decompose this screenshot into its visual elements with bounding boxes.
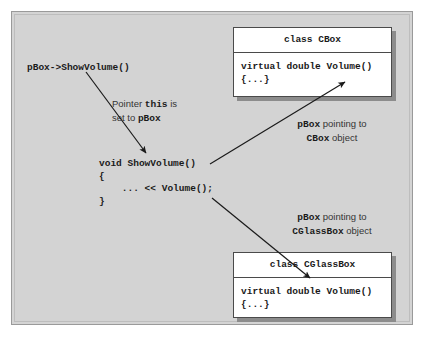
pointer-this-note: Pointer this is set to pBox: [112, 97, 177, 125]
class-box-cbox-method: virtual double Volume(): [241, 61, 372, 72]
class-box-cglassbox: class CGlassBox virtual double Volume() …: [233, 252, 392, 318]
cbox-label-code-pbox: pBox: [297, 119, 320, 130]
cglassbox-label-line2-suffix: object: [344, 225, 372, 236]
function-block: void ShowVolume() { ... << Volume(); }: [99, 158, 213, 208]
cglassbox-arrow-label: pBox pointing to CGlassBox object: [262, 210, 402, 238]
cbox-label-line2-suffix: object: [329, 132, 357, 143]
cbox-arrow-label-line1: pBox pointing to: [297, 118, 366, 129]
class-box-cglassbox-method-body: {...}: [241, 299, 270, 310]
cbox-arrow-label-line2: CBox object: [307, 132, 358, 143]
cglassbox-label-code-pbox: pBox: [297, 212, 320, 223]
class-box-cglassbox-header: class CGlassBox: [234, 253, 391, 278]
cglassbox-arrow-label-line2: CGlassBox object: [292, 225, 371, 236]
function-block-statement: ... << Volume();: [99, 183, 213, 194]
cbox-arrow-label: pBox pointing to CBox object: [272, 117, 392, 145]
pointer-note-line1: Pointer this is: [112, 98, 177, 109]
cbox-label-line1-suffix: pointing to: [320, 118, 366, 129]
pointer-note-line2: set to pBox: [112, 112, 161, 123]
call-site-text: pBox->ShowVolume(): [27, 62, 130, 75]
pointer-note-line2-prefix: set to: [112, 112, 138, 123]
pointer-note-prefix: Pointer: [112, 98, 145, 109]
pointer-note-code-this: this: [145, 99, 168, 110]
function-block-close-brace: }: [99, 196, 105, 207]
class-box-cglassbox-body: virtual double Volume() {...}: [234, 278, 391, 311]
pointer-note-code-pbox: pBox: [138, 113, 161, 124]
function-block-open-brace: {: [99, 171, 105, 182]
class-box-cbox-header: class CBox: [234, 28, 391, 53]
diagram-canvas: pBox->ShowVolume() Pointer this is set t…: [0, 0, 425, 346]
class-box-cbox-body: virtual double Volume() {...}: [234, 53, 391, 86]
class-box-cbox: class CBox virtual double Volume() {...}: [233, 27, 392, 97]
class-box-cglassbox-method: virtual double Volume(): [241, 286, 372, 297]
pointer-note-suffix: is: [168, 98, 178, 109]
cglassbox-label-line1-suffix: pointing to: [320, 211, 366, 222]
cbox-label-code-cbox: CBox: [307, 133, 330, 144]
cglassbox-arrow-label-line1: pBox pointing to: [297, 211, 366, 222]
class-box-cbox-method-body: {...}: [241, 74, 270, 85]
cglassbox-label-code-cglassbox: CGlassBox: [292, 226, 343, 237]
function-block-signature: void ShowVolume(): [99, 158, 196, 169]
